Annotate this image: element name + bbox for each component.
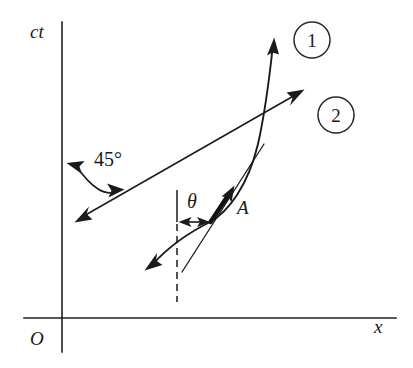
theta-label: θ [187, 190, 197, 212]
spacetime-diagram-figure: 1 2 ct x O 45° θ A [0, 0, 413, 368]
angle-45-left-arrowhead [67, 161, 85, 174]
ct-axis-label: ct [30, 21, 44, 42]
badge-one-group: 1 [294, 22, 330, 58]
diagram-canvas: 1 2 ct x O 45° θ A [0, 0, 413, 368]
four-vector-A-label: A [235, 197, 249, 218]
angle-45-label: 45° [94, 148, 122, 170]
angle-45-right-arrowhead [107, 184, 125, 198]
badge-two-label: 2 [331, 105, 341, 126]
axes-group [24, 22, 396, 352]
worldline-1-curve [153, 49, 273, 264]
worldline-1-group [145, 38, 280, 271]
badge-one-label: 1 [307, 30, 317, 51]
ray-2-upper-arrowhead [287, 90, 305, 106]
x-axis-label: x [373, 316, 383, 337]
badge-two-group: 2 [318, 97, 354, 133]
ray-2-lower-arrowhead [75, 207, 93, 223]
origin-label: O [30, 328, 44, 349]
